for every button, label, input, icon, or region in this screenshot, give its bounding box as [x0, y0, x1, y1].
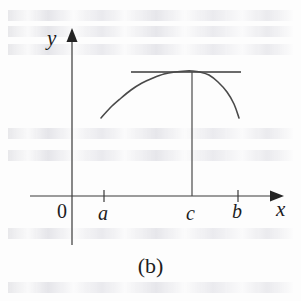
function-curve [101, 71, 239, 118]
figure-caption: (b) [0, 255, 301, 277]
y-axis [67, 28, 78, 245]
x-axis [30, 191, 284, 202]
tick-label-c: c [186, 203, 195, 223]
tick-label-a: a [98, 203, 108, 223]
origin-label: 0 [57, 201, 67, 221]
x-axis-label: x [276, 199, 285, 220]
figure-panel-b: y x 0 a c b (b) [0, 0, 301, 301]
y-axis-arrowhead [67, 28, 78, 42]
y-axis-label: y [47, 28, 56, 49]
tick-label-b: b [232, 201, 242, 221]
